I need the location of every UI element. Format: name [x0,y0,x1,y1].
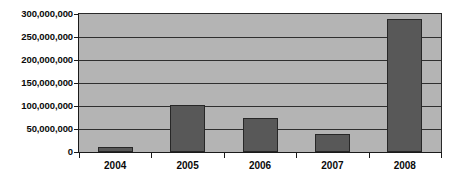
x-axis-tick-label: 2004 [104,161,126,171]
x-axis-line [78,152,442,153]
x-axis-tick-label: 2007 [321,161,343,171]
bar [315,134,350,152]
bar [243,118,278,152]
y-axis-tick-label: 200,000,000 [0,55,73,65]
x-axis-tick-label: 2006 [249,161,271,171]
bar-chart: 050,000,000100,000,000150,000,000200,000… [0,0,458,186]
x-axis-tick-label: 2005 [176,161,198,171]
y-axis-tick-label: 150,000,000 [0,78,73,88]
y-axis-tick-label: 0 [0,147,73,157]
y-axis-tick-labels: 050,000,000100,000,000150,000,000200,000… [0,0,73,186]
plot-frame-right-border [441,13,442,153]
x-axis-tick-mark [79,153,80,158]
x-axis-tick-labels: 20042005200620072008 [79,161,441,181]
bar [170,105,205,152]
y-axis-tick-label: 250,000,000 [0,32,73,42]
x-axis-tick-mark [224,153,225,158]
x-axis-tick-label: 2008 [394,161,416,171]
x-axis-tick-mark [151,153,152,158]
x-axis-tick-mark [369,153,370,158]
y-axis-tick-label: 300,000,000 [0,9,73,19]
x-axis-tick-mark [441,153,442,158]
y-axis-tick-label: 100,000,000 [0,101,73,111]
bar [387,19,422,152]
y-axis-tick-label: 50,000,000 [0,124,73,134]
bar-series [79,14,441,152]
x-axis-tick-mark [296,153,297,158]
plot-area [79,14,441,152]
